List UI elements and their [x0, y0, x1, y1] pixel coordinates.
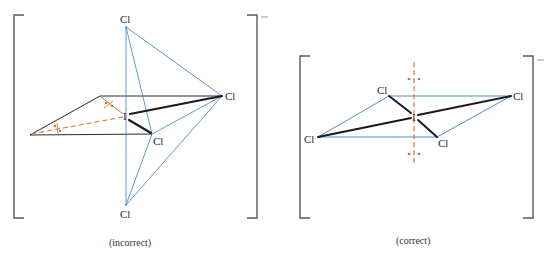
left-diagram-incorrect: Cl Cl I Cl Cl (incorrect)	[14, 13, 268, 249]
left-caption: (incorrect)	[109, 237, 151, 249]
lone-pair-bottom-dot-right	[418, 153, 421, 156]
right-i-center-label: I	[412, 111, 416, 123]
left-bracket-close	[247, 15, 257, 218]
lone-pair-top-dot-left	[408, 78, 411, 81]
lone-pairs-equatorial	[31, 97, 123, 134]
left-cl-bottom-label: Cl	[120, 208, 130, 220]
right-cl-backleft-label: Cl	[377, 84, 387, 96]
right-cl-left-label: Cl	[304, 133, 314, 145]
left-cl-right-label: Cl	[225, 90, 235, 102]
right-cl-right-label: Cl	[513, 90, 523, 102]
right-diagram-correct: Cl Cl I Cl Cl (correct)	[300, 56, 544, 247]
left-cl-top-label: Cl	[120, 13, 130, 25]
diagram-canvas: Cl Cl I Cl Cl (incorrect)	[0, 0, 545, 257]
bonds-black	[129, 96, 222, 133]
lone-pair-marker-1	[57, 123, 58, 134]
lone-pair-top-dot-right	[418, 78, 421, 81]
left-i-center-label: I	[123, 110, 127, 122]
right-bracket-close	[523, 56, 533, 218]
lone-pair-bottom-dot-left	[408, 153, 411, 156]
left-bracket-open	[14, 15, 24, 218]
left-cl-front-label: Cl	[153, 135, 163, 147]
right-cl-frontright-label: Cl	[438, 137, 448, 149]
right-caption: (correct)	[396, 235, 430, 247]
bipyramid-edges	[126, 27, 222, 205]
